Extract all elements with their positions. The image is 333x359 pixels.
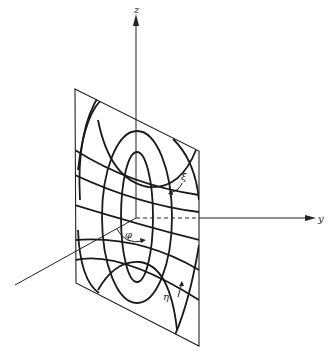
coordinate-curves [75, 94, 199, 335]
diagram-canvas: z y ξ η φ [0, 0, 333, 359]
cross-curve-4 [75, 239, 199, 270]
z-axis-label: z [133, 4, 140, 15]
eta-arrowhead-icon [179, 281, 184, 286]
phi-label: φ [125, 229, 132, 240]
cross-curve-3 [75, 205, 199, 240]
z-axis-arrow-icon [133, 14, 139, 26]
xi-label: ξ [181, 171, 187, 182]
phi-arrowhead-icon [140, 238, 146, 243]
eta-label: η [163, 291, 169, 302]
cross-curve-5 [75, 258, 199, 300]
y-axis-arrow-icon [305, 215, 316, 221]
y-axis-label: y [317, 213, 324, 224]
